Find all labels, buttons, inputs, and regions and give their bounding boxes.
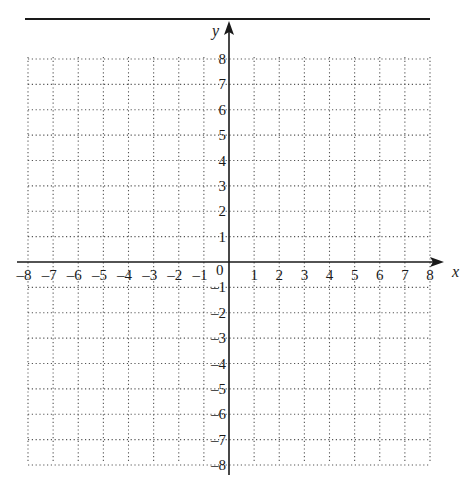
x-tick-label: –2 <box>166 267 182 283</box>
y-tick-label: 4 <box>219 153 227 169</box>
y-tick-label: –1 <box>210 279 226 295</box>
x-tick-label: 3 <box>301 267 309 283</box>
y-axis-label: y <box>210 22 220 40</box>
x-tick-label: –4 <box>116 267 133 283</box>
x-tick-label: –5 <box>91 267 107 283</box>
x-tick-label: 7 <box>401 267 409 283</box>
y-tick-label: –3 <box>210 330 226 346</box>
y-tick-label: 7 <box>219 76 227 92</box>
y-tick-label: 6 <box>219 102 227 118</box>
y-tick-label: 1 <box>219 229 227 245</box>
y-tick-label: –5 <box>210 381 226 397</box>
origin-label: 0 <box>216 262 224 278</box>
x-tick-label: 6 <box>376 267 384 283</box>
x-tick-label: 8 <box>426 267 434 283</box>
x-tick-label: –3 <box>141 267 157 283</box>
y-tick-label: 2 <box>219 203 227 219</box>
y-tick-label: –7 <box>210 432 227 448</box>
x-tick-label: 4 <box>326 267 334 283</box>
x-tick-label: –7 <box>41 267 58 283</box>
x-tick-label: 2 <box>276 267 284 283</box>
y-tick-label: 3 <box>219 178 227 194</box>
y-tick-label: –2 <box>210 305 226 321</box>
coordinate-plane: –8–7–6–5–4–3–2–11234567887654321–1–2–3–4… <box>0 0 473 484</box>
y-tick-label: 8 <box>219 51 227 67</box>
y-tick-label: –4 <box>210 356 227 372</box>
x-tick-label: –1 <box>191 267 207 283</box>
y-tick-label: 5 <box>219 127 227 143</box>
x-tick-label: 1 <box>250 267 258 283</box>
y-tick-label: –6 <box>210 406 227 422</box>
x-tick-label: 5 <box>351 267 359 283</box>
y-tick-label: –8 <box>210 457 226 473</box>
x-tick-label: –8 <box>16 267 32 283</box>
x-tick-label: –6 <box>66 267 83 283</box>
x-axis-label: x <box>451 263 459 280</box>
